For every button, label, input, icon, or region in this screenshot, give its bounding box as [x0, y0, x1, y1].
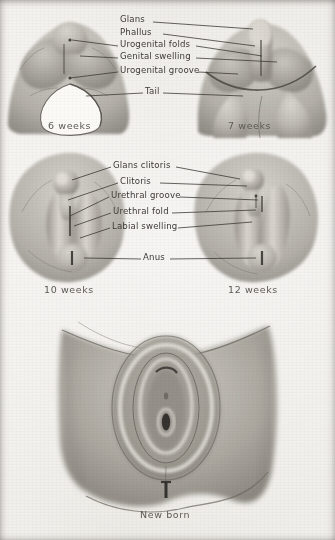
caption-12-weeks: 12 weeks — [228, 284, 278, 295]
anatomical-plate: Glans Phallus Urogenital folds Genital s… — [0, 0, 335, 540]
caption-new-born: New born — [140, 509, 190, 520]
label-genital-swelling: Genital swelling — [120, 51, 191, 61]
plate-frame — [0, 0, 335, 540]
label-clitoris: Clitoris — [120, 176, 151, 186]
label-phallus: Phallus — [120, 27, 152, 37]
label-tail: Tail — [145, 86, 159, 96]
label-glans: Glans — [120, 14, 145, 24]
label-urethral-groove: Urethral groove — [111, 190, 181, 200]
label-urogenital-groove: Urogenital groove — [120, 65, 199, 75]
caption-6-weeks: 6 weeks — [48, 120, 91, 131]
label-labial-swelling: Labial swelling — [112, 221, 177, 231]
label-glans-clitoris: Glans clitoris — [113, 160, 171, 170]
label-urogenital-folds: Urogenital folds — [120, 39, 190, 49]
label-anus: Anus — [143, 252, 165, 262]
caption-7-weeks: 7 weeks — [228, 120, 271, 131]
label-urethral-fold: Urethral fold — [113, 206, 169, 216]
caption-10-weeks: 10 weeks — [44, 284, 94, 295]
